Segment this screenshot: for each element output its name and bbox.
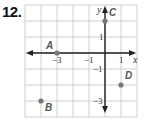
point-a-label: A	[45, 40, 53, 51]
x-tick-label: 1	[119, 55, 124, 65]
y-axis-up-arrow-icon	[102, 6, 108, 13]
coordinate-plane: xy−3−111−1−3 ABCD	[0, 0, 145, 126]
point-d-label: D	[125, 70, 132, 81]
y-axis-down-arrow-icon	[102, 106, 108, 113]
point-a-marker	[54, 50, 59, 55]
point-c-label: C	[109, 7, 117, 18]
y-tick-label: −3	[93, 96, 103, 106]
point-b-marker	[38, 98, 43, 103]
x-axis-left-arrow-icon	[26, 50, 33, 56]
x-tick-label: −3	[52, 55, 62, 65]
point-c-marker	[102, 18, 107, 23]
tick-labels: xy−3−111−1−3	[52, 4, 138, 106]
x-axis-label: x	[132, 54, 138, 65]
point-b-label: B	[45, 102, 52, 113]
point-d-marker	[118, 82, 123, 87]
y-tick-label: 1	[99, 32, 104, 42]
y-axis-label: y	[96, 4, 102, 15]
y-tick-label: −1	[93, 64, 103, 74]
